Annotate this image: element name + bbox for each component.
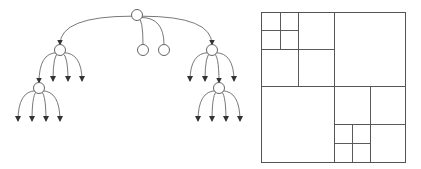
leaf-arrow-edge	[198, 91, 216, 121]
leaf-arrow-edge	[40, 91, 46, 121]
leaf-arrow-edge	[220, 91, 226, 121]
quadtree-cell	[353, 144, 371, 163]
quadtree-cell	[281, 13, 299, 31]
leaf-arrow-edge	[222, 91, 240, 121]
leaf-arrow-edge	[32, 91, 38, 121]
leaf-arrow-edge	[53, 53, 59, 81]
tree-node-right	[207, 45, 218, 56]
tree-node-left	[55, 45, 66, 56]
tree-node-right-mid	[214, 83, 225, 94]
tree-edge	[60, 16, 132, 44]
quadtree-outer-box	[262, 13, 406, 163]
quadtree-cell	[262, 31, 281, 50]
tree-node-mid2	[159, 45, 170, 56]
quadtree-cell	[299, 50, 335, 87]
leaf-arrow-edge	[42, 91, 60, 121]
tree-and-quadtree-diagram	[0, 0, 421, 169]
leaf-arrow-edge	[215, 53, 234, 81]
quadtree-cell	[281, 31, 299, 50]
quadtree-cell	[335, 125, 353, 144]
leaf-arrow-edge	[61, 53, 68, 81]
quadtree-cell	[335, 87, 371, 125]
quadtree-cell	[262, 13, 281, 31]
quadtree-cell	[335, 144, 353, 163]
tree-node-left-left	[34, 83, 45, 94]
quadtree-cell	[262, 87, 335, 163]
quadtree-cell	[371, 87, 406, 125]
tree-node-mid1	[138, 45, 149, 56]
quadtree-cell	[262, 50, 299, 87]
quadtree-cell	[353, 125, 371, 144]
tree-edge	[39, 53, 57, 83]
tree-edges	[39, 16, 219, 82]
tree-edge	[213, 53, 219, 82]
leaf-arrow-edge	[205, 53, 211, 81]
quadtree-cell	[335, 13, 406, 87]
leaf-arrow-edge	[190, 53, 209, 81]
quadtree-grid	[262, 13, 406, 163]
tree-leaf-arrows	[18, 53, 240, 121]
leaf-arrow-edge	[212, 91, 218, 121]
tree-edge	[142, 16, 212, 44]
quadtree-cell	[262, 13, 299, 50]
quadtree-cell	[371, 125, 406, 163]
tree-nodes	[34, 10, 225, 94]
leaf-arrow-edge	[63, 53, 82, 81]
tree-edge	[138, 18, 143, 44]
tree-edge	[141, 17, 164, 44]
tree-node-root	[132, 10, 143, 21]
leaf-arrow-edge	[18, 91, 36, 121]
quadtree-cell	[299, 13, 335, 50]
